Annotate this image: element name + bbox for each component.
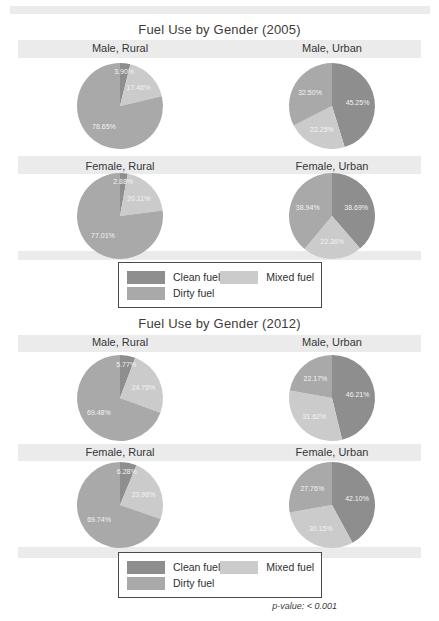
pie-title-male-rural-2012: Male, Rural — [40, 336, 200, 348]
slice-label-dirty: 22.17% — [304, 375, 328, 382]
pie-chart-male-urban-2012: 46.21%31.62%22.17% — [282, 352, 382, 444]
legend-swatch-clean — [127, 271, 165, 284]
legend-item-mixed-fuel: Mixed fuel — [220, 561, 314, 574]
legend-2012: Clean fuel Mixed fuel Dirty fuel — [118, 552, 322, 598]
legend-label-clean: Clean fuel — [173, 561, 220, 573]
slice-label-clean: 46.21% — [346, 391, 370, 398]
slice-label-dirty: 78.65% — [92, 123, 116, 130]
legend-item-clean-fuel: Clean fuel — [127, 561, 220, 574]
pie-chart-female-urban-2005: 38.69%22.36%38.94% — [282, 170, 382, 262]
figure-title-2012: Fuel Use by Gender (2012) — [0, 316, 439, 331]
slice-label-mixed: 31.62% — [302, 413, 326, 420]
legend-swatch-clean — [127, 561, 165, 574]
slice-label-mixed: 22.25% — [310, 126, 334, 133]
slice-label-mixed: 24.76% — [132, 384, 156, 391]
pie-title-male-rural-2005: Male, Rural — [40, 42, 200, 54]
legend-swatch-mixed — [220, 271, 258, 284]
slice-label-dirty: 69.74% — [87, 516, 111, 523]
slice-label-clean: 45.25% — [346, 99, 370, 106]
slice-label-clean: 2.88% — [113, 178, 133, 185]
legend-item-mixed-fuel: Mixed fuel — [220, 271, 314, 284]
slice-label-clean: 42.10% — [345, 495, 369, 502]
slice-label-clean: 5.77% — [116, 361, 136, 368]
legend-swatch-mixed — [220, 561, 258, 574]
legend-swatch-dirty — [127, 287, 165, 300]
pie-title-female-urban-2012: Female, Urban — [252, 446, 412, 458]
slice-label-mixed: 22.36% — [320, 238, 344, 245]
pie-chart-male-rural-2012: 5.77%24.76%69.48% — [70, 352, 170, 444]
legend-label-mixed: Mixed fuel — [266, 271, 314, 283]
pie-chart-male-rural-2005: 3.90%17.46%78.65% — [70, 60, 170, 152]
scan-band — [10, 6, 430, 14]
figure-title-2005: Fuel Use by Gender (2005) — [0, 22, 439, 37]
slice-label-clean: 6.28% — [117, 468, 137, 475]
legend-label-dirty: Dirty fuel — [173, 287, 214, 299]
pie-title-male-urban-2012: Male, Urban — [252, 336, 412, 348]
figure-canvas: Fuel Use by Gender (2005) Male, Rural Ma… — [0, 0, 439, 621]
slice-label-mixed: 30.15% — [309, 525, 333, 532]
legend-item-dirty-fuel: Dirty fuel — [127, 577, 220, 590]
legend-label-mixed: Mixed fuel — [266, 561, 314, 573]
legend-2005: Clean fuel Mixed fuel Dirty fuel — [118, 262, 322, 308]
pie-title-male-urban-2005: Male, Urban — [252, 42, 412, 54]
slice-label-mixed: 17.46% — [127, 84, 151, 91]
slice-label-clean: 38.69% — [344, 204, 368, 211]
slice-label-dirty: 32.50% — [298, 89, 322, 96]
p-value-note: p-value: < 0.001 — [272, 601, 337, 611]
slice-label-dirty: 27.76% — [300, 485, 324, 492]
slice-label-dirty: 69.48% — [87, 409, 111, 416]
slice-label-mixed: 23.98% — [132, 491, 156, 498]
slice-label-dirty: 38.94% — [296, 204, 320, 211]
pie-chart-female-rural-2012: 6.28%23.98%69.74% — [70, 459, 170, 551]
legend-label-dirty: Dirty fuel — [173, 577, 214, 589]
pie-chart-male-urban-2005: 45.25%22.25%32.50% — [282, 60, 382, 152]
legend-item-clean-fuel: Clean fuel — [127, 271, 220, 284]
pie-chart-female-urban-2012: 42.10%30.15%27.76% — [282, 459, 382, 551]
legend-label-clean: Clean fuel — [173, 271, 220, 283]
slice-label-dirty: 77.01% — [91, 232, 115, 239]
legend-item-dirty-fuel: Dirty fuel — [127, 287, 220, 300]
slice-label-mixed: 20.11% — [127, 195, 150, 202]
pie-chart-female-rural-2005: 2.88%20.11%77.01% — [70, 170, 170, 262]
slice-label-clean: 3.90% — [114, 68, 134, 75]
pie-title-female-rural-2012: Female, Rural — [40, 446, 200, 458]
legend-swatch-dirty — [127, 577, 165, 590]
